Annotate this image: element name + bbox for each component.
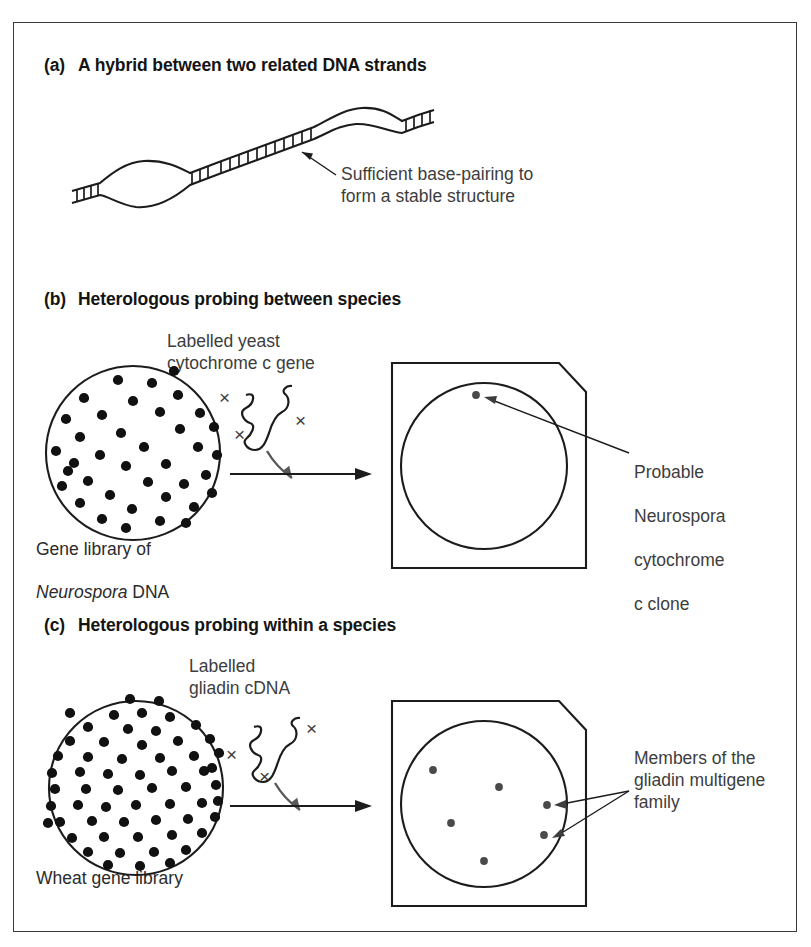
panel-b-probe-label: Labelled yeast cytochrome c gene	[167, 330, 315, 374]
panel-a-leader-arrow	[302, 152, 336, 175]
panel-b-autoradiograph-film	[392, 363, 586, 568]
panel-c-title: Heterologous probing within a species	[78, 615, 396, 635]
panel-c-film-circle	[401, 721, 567, 887]
panel-a-heading: (a)A hybrid between two related DNA stra…	[44, 55, 427, 76]
panel-b-result-line2: Neurospora	[634, 505, 725, 527]
panel-b-probe-transfer-arrow	[267, 451, 295, 478]
panel-c-positive-signal-group	[429, 766, 551, 865]
panel-b-heading: (b)Heterologous probing between species	[44, 289, 401, 310]
panel-b-label-marks: × × ×	[219, 387, 306, 445]
panel-b-transfer-arrow	[230, 468, 372, 480]
svg-text:×: ×	[219, 387, 230, 408]
panel-b-colony-group	[51, 366, 222, 533]
panel-c-tag: (c)	[44, 615, 78, 636]
panel-c-signal-3	[543, 801, 551, 809]
panel-c-signal-6	[480, 857, 488, 865]
svg-text:×: ×	[259, 766, 270, 787]
panel-b-result-line3: cytochrome	[634, 549, 725, 571]
panel-b-probe-squiggle	[242, 386, 292, 450]
panel-c-signal-2	[495, 783, 503, 791]
panel-b-result-line1: Probable	[634, 461, 725, 483]
panel-b-result-line4: c clone	[634, 593, 725, 615]
panel-c-library-caption: Wheat gene library	[36, 868, 266, 890]
panel-c-result-leader-arrows	[552, 791, 629, 838]
panel-a-annotation: Sufficient base-pairing to form a stable…	[341, 163, 533, 207]
panel-a-tag: (a)	[44, 55, 78, 76]
panel-c-label-marks: × × ×	[226, 718, 317, 787]
svg-text:×: ×	[226, 744, 237, 765]
panel-c-signal-5	[540, 831, 548, 839]
panel-b-positive-signal	[472, 391, 480, 399]
panel-b-library-caption: Gene library of Neurospora DNA	[36, 517, 251, 604]
panel-c-probe-label: Labelled gliadin cDNA	[189, 655, 290, 699]
panel-c-colony-group	[43, 694, 224, 871]
panel-a-title: A hybrid between two related DNA strands	[78, 55, 427, 75]
panel-c-result-label: Members of the gliadin multigene family	[634, 747, 765, 813]
svg-text:×: ×	[295, 410, 306, 431]
panel-c-transfer-arrow	[230, 800, 372, 812]
panel-b-library-caption-genus: Neurospora	[36, 582, 127, 602]
panel-c-petri-dish	[49, 701, 223, 875]
svg-text:×: ×	[306, 718, 317, 739]
panel-b-library-caption-line1: Gene library of	[36, 539, 151, 559]
panel-b-petri-dish	[46, 366, 220, 540]
panel-c-heading: (c)Heterologous probing within a species	[44, 615, 396, 636]
panel-c-probe-transfer-arrow	[275, 783, 303, 810]
figure-frame: (a)A hybrid between two related DNA stra…	[13, 22, 797, 932]
panel-c-autoradiograph-film	[392, 701, 586, 906]
panel-b-film-circle	[401, 383, 567, 549]
panel-c-probe-squiggle	[250, 718, 300, 782]
panel-b-result-label: Probable Neurospora cytochrome c clone	[634, 439, 725, 637]
panel-b-title: Heterologous probing between species	[78, 289, 401, 309]
panel-b-result-leader-arrow	[484, 396, 629, 453]
svg-text:×: ×	[234, 424, 245, 445]
panel-c-signal-1	[429, 766, 437, 774]
panel-b-tag: (b)	[44, 289, 78, 310]
panel-c-signal-4	[447, 819, 455, 827]
